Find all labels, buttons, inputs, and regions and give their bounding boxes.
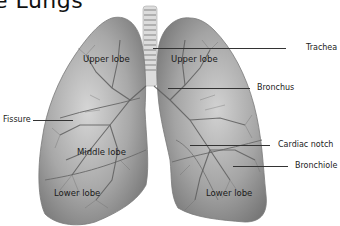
cardiac-notch-label: Cardiac notch [278,141,333,149]
bronchiole-label: Bronchiole [295,162,337,170]
upper-lobe-left-label: Upper lobe [171,55,218,64]
lower-lobe-right-label: Lower lobe [54,189,100,198]
lower-lobe-left-label: Lower lobe [206,189,252,198]
fissure-label: Fissure [3,116,31,124]
bronchus-label: Bronchus [257,84,294,92]
upper-lobe-right-label: Upper lobe [83,55,130,64]
bronchus-leader-line [168,88,250,89]
middle-lobe-label: Middle lobe [77,148,126,157]
bronchiole-leader-line [233,166,288,167]
trachea-label: Trachea [306,44,337,52]
trachea-leader-line [153,48,286,49]
cardiac-notch-leader-line [190,145,270,146]
fissure-leader-line [33,120,73,121]
lungs-illustration [0,0,340,226]
